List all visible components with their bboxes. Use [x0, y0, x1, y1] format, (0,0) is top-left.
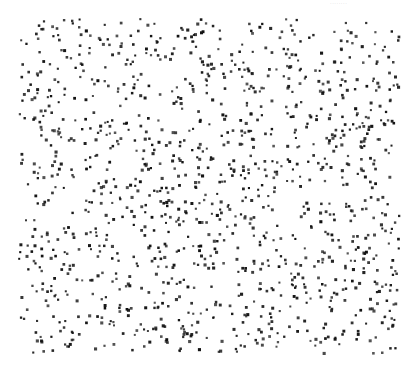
dot: [256, 342, 259, 345]
dot: [252, 138, 255, 141]
dot: [52, 249, 54, 251]
dot: [385, 111, 387, 113]
dot: [351, 210, 354, 213]
dot: [194, 181, 197, 184]
dot: [192, 245, 194, 247]
dot: [211, 213, 213, 215]
dot: [159, 162, 162, 165]
dot: [211, 98, 214, 101]
dot: [303, 212, 306, 215]
dot: [246, 83, 249, 86]
dot: [182, 325, 184, 327]
dot: [276, 161, 278, 163]
dot: [131, 196, 134, 199]
dot: [394, 270, 396, 272]
dot: [136, 150, 138, 152]
dot: [250, 112, 253, 115]
dot: [350, 220, 353, 223]
dot: [320, 296, 323, 299]
dot: [322, 91, 324, 93]
dot: [304, 247, 306, 249]
dot: [293, 295, 296, 298]
dot: [289, 57, 291, 59]
dot: [183, 333, 186, 336]
dot: [210, 68, 212, 70]
dot: [397, 238, 400, 241]
dot: [351, 322, 354, 325]
dot: [27, 71, 30, 74]
dot: [223, 239, 225, 241]
dot: [210, 255, 212, 257]
dot: [104, 66, 106, 68]
dot: [344, 267, 347, 270]
dot: [259, 282, 262, 285]
dot: [381, 196, 384, 199]
dot: [117, 87, 119, 89]
dot: [398, 36, 401, 39]
dot: [153, 23, 155, 25]
dot: [303, 283, 305, 285]
dot: [230, 168, 232, 170]
dot: [193, 262, 195, 264]
dot: [58, 168, 61, 171]
dot: [364, 176, 367, 179]
dot: [71, 212, 73, 214]
dot: [178, 223, 181, 226]
dot: [248, 187, 250, 189]
dot: [125, 63, 128, 66]
dot: [21, 63, 24, 66]
dot: [291, 180, 294, 183]
dot: [250, 199, 253, 202]
dot: [100, 193, 103, 196]
dot: [357, 330, 360, 333]
dot: [179, 97, 182, 100]
dot: [394, 221, 396, 223]
dot: [66, 294, 68, 296]
dot: [384, 213, 387, 216]
dot: [154, 49, 157, 52]
dot: [195, 46, 197, 48]
dot: [104, 80, 106, 82]
dot: [394, 347, 396, 349]
dot: [243, 90, 245, 92]
dot: [125, 98, 128, 101]
dot: [231, 232, 234, 235]
dot: [37, 75, 39, 77]
dot: [222, 262, 225, 265]
dot: [121, 42, 123, 44]
dot: [60, 49, 62, 51]
dot: [243, 69, 245, 71]
dot: [150, 35, 152, 37]
dot: [334, 103, 337, 106]
dot: [241, 135, 243, 137]
dot: [261, 23, 263, 25]
dot: [354, 286, 357, 289]
dot: [162, 281, 165, 284]
dot: [350, 260, 352, 262]
dot: [280, 294, 282, 296]
dot: [210, 156, 212, 158]
dot: [381, 321, 384, 324]
dot: [297, 60, 299, 62]
dot: [54, 255, 57, 258]
dot: [267, 205, 269, 207]
dot: [144, 306, 147, 309]
dot: [44, 110, 47, 113]
dot: [246, 313, 249, 316]
dot: [154, 257, 157, 260]
dot: [358, 126, 361, 129]
dot: [342, 330, 345, 333]
dot: [100, 130, 102, 132]
dot: [260, 87, 263, 90]
dot: [275, 249, 278, 252]
dot: [165, 187, 168, 190]
dot: [148, 138, 150, 140]
dot: [179, 159, 182, 162]
dot: [70, 168, 73, 171]
dot: [226, 131, 229, 134]
dot: [91, 78, 93, 80]
dot: [140, 125, 143, 128]
dot: [334, 338, 337, 341]
dot: [159, 251, 162, 254]
dot: [199, 57, 201, 59]
